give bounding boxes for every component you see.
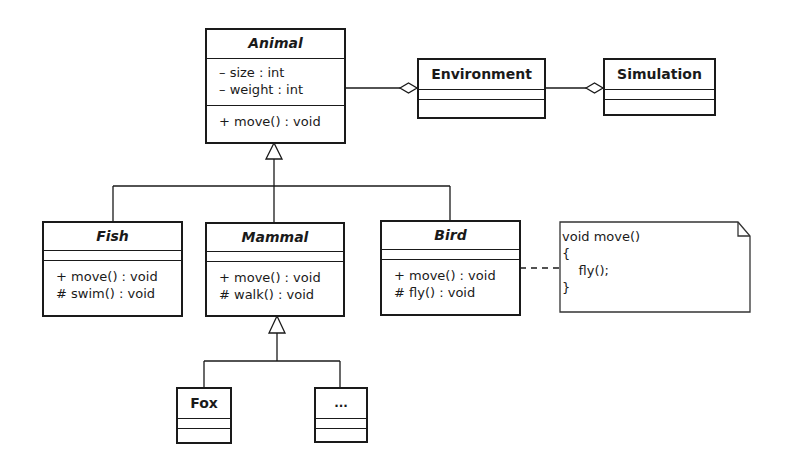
class-name: Environment <box>419 60 544 90</box>
class-name: Fox <box>178 389 230 419</box>
attributes-section <box>419 90 544 100</box>
class-fish[interactable]: Fish + move() : void # swim() : void <box>42 221 183 317</box>
aggregation-animal-environment <box>345 83 417 93</box>
attributes-section <box>605 90 714 100</box>
inheritance-triangle-icon <box>266 143 282 159</box>
attributes-section <box>382 250 519 260</box>
class-simulation[interactable]: Simulation <box>603 58 716 116</box>
class-name: Bird <box>382 222 519 250</box>
operations-section <box>419 100 544 117</box>
attribute: – weight : int <box>219 81 344 98</box>
note-line: } <box>562 279 750 296</box>
class-animal[interactable]: Animal – size : int – weight : int + mov… <box>205 28 346 144</box>
note-line: fly(); <box>562 262 750 279</box>
aggregation-environment-simulation <box>545 83 603 93</box>
note-line: void move() <box>562 228 750 245</box>
generalization-animal <box>113 143 450 222</box>
aggregation-diamond-icon <box>586 83 603 93</box>
attribute: – size : int <box>219 64 344 81</box>
operations-section <box>316 429 366 441</box>
operations-section: + move() : void <box>207 106 344 130</box>
operation: # walk() : void <box>219 286 343 303</box>
operation: # fly() : void <box>394 284 519 301</box>
inheritance-triangle-icon <box>269 316 285 333</box>
generalization-mammal <box>204 316 340 387</box>
operations-section <box>178 429 230 442</box>
attributes-section <box>178 419 230 429</box>
class-mammal[interactable]: Mammal + move() : void # walk() : void <box>205 222 345 317</box>
class-name: Simulation <box>605 60 714 90</box>
attributes-section: – size : int – weight : int <box>207 59 344 106</box>
operation: + move() : void <box>219 269 343 286</box>
attributes-section <box>316 419 366 429</box>
operations-section <box>605 100 714 114</box>
class-environment[interactable]: Environment <box>417 58 546 119</box>
class-fox[interactable]: Fox <box>176 387 232 444</box>
attributes-section <box>44 251 181 261</box>
note-line: { <box>562 245 750 262</box>
aggregation-diamond-icon <box>400 83 417 93</box>
class-name: Mammal <box>207 224 343 252</box>
class-name: Fish <box>44 223 181 251</box>
class-name: ... <box>316 389 366 419</box>
operation: + move() : void <box>56 268 181 285</box>
operations-section: + move() : void # walk() : void <box>207 262 343 303</box>
operations-section: + move() : void # fly() : void <box>382 260 519 301</box>
operations-section: + move() : void # swim() : void <box>44 261 181 302</box>
operation: # swim() : void <box>56 285 181 302</box>
operation: + move() : void <box>394 267 519 284</box>
class-more[interactable]: ... <box>314 387 368 443</box>
class-name: Animal <box>207 30 344 59</box>
attributes-section <box>207 252 343 262</box>
note-comment[interactable]: void move() { fly(); } <box>560 222 750 312</box>
class-bird[interactable]: Bird + move() : void # fly() : void <box>380 220 521 316</box>
operation: + move() : void <box>219 113 344 130</box>
